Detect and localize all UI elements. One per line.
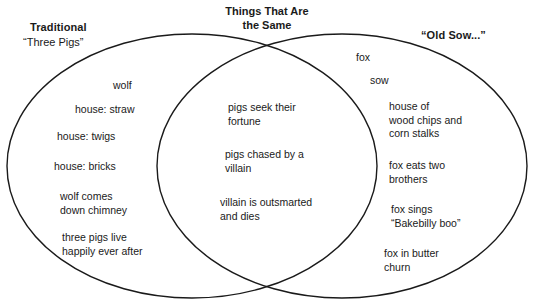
left-item-1: house: straw xyxy=(75,103,135,117)
right-item-4: fox sings “Bakebilly boo” xyxy=(391,203,460,230)
left-item-5: three pigs live happily ever after xyxy=(62,231,143,258)
right-item-1: sow xyxy=(370,74,389,88)
right-circle xyxy=(157,34,527,298)
right-item-5: fox in butter churn xyxy=(384,247,439,274)
left-item-3: house: bricks xyxy=(54,160,116,174)
right-item-0: fox xyxy=(356,51,370,65)
center-item-1: pigs chased by a villain xyxy=(225,148,304,175)
right-heading-title: “Old Sow...” xyxy=(421,30,486,41)
venn-diagram-canvas: Traditional “Three Pigs” Things That Are… xyxy=(0,0,534,307)
left-heading-subtitle: “Three Pigs” xyxy=(23,37,84,48)
left-heading-title: Traditional xyxy=(30,22,87,33)
center-item-2: villain is outsmarted and dies xyxy=(220,196,312,223)
right-item-3: fox eats two brothers xyxy=(389,159,445,186)
center-heading-title: Things That Are the Same xyxy=(187,4,347,32)
left-item-0: wolf xyxy=(113,79,132,93)
left-item-2: house: twigs xyxy=(57,130,115,144)
left-item-4: wolf comes down chimney xyxy=(60,190,127,217)
center-item-0: pigs seek their fortune xyxy=(228,101,296,128)
right-item-2: house of wood chips and corn stalks xyxy=(389,100,462,141)
